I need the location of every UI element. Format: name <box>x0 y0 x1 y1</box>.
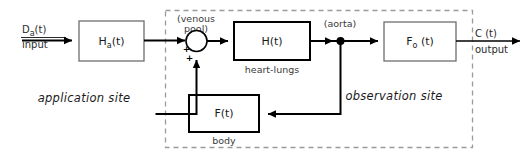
block-diagram-root: Da(t) input Ha(t) (venous pool) + + <box>0 0 532 163</box>
observation-site-label: observation site <box>345 89 442 103</box>
block-ha-suffix: (t) <box>112 35 125 48</box>
block-fo-label: Fo (t) <box>406 35 434 50</box>
block-ha-base: H <box>98 35 106 48</box>
block-h-caption: heart-lungs <box>245 64 299 75</box>
block-f-caption: body <box>212 135 236 146</box>
venous-pool-plus-vertical: + <box>186 53 194 63</box>
output-role-label: output <box>475 44 508 55</box>
block-ha-label: Ha(t) <box>98 35 124 50</box>
input-signal-label: Da(t) input <box>21 24 66 50</box>
block-fo[interactable]: Fo (t) <box>384 22 456 61</box>
block-h-label: H(t) <box>261 35 282 48</box>
application-site-label: application site <box>38 91 131 105</box>
diagram-canvas: Da(t) input Ha(t) (venous pool) + + <box>0 0 532 163</box>
aorta-label: (aorta) <box>324 18 357 29</box>
input-signal-suffix: (t) <box>35 24 47 35</box>
block-f-label: F(t) <box>214 107 233 120</box>
block-f[interactable]: F(t) body <box>189 95 259 146</box>
block-fo-suffix: (t) <box>417 35 433 48</box>
input-signal-name: Da(t) <box>22 24 46 38</box>
block-ha[interactable]: Ha(t) <box>79 21 144 61</box>
block-h[interactable]: H(t) heart-lungs <box>234 22 310 75</box>
junction-venous-pool[interactable]: (venous pool) + + <box>177 13 215 63</box>
output-signal-name: C (t) <box>475 28 497 39</box>
